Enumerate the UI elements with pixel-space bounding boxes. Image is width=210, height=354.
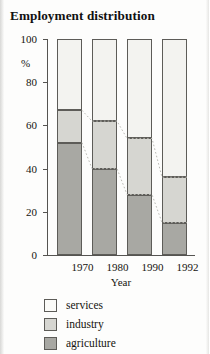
bar-1990-segment-agriculture	[127, 195, 152, 255]
bar-1980-segment-agriculture	[92, 169, 117, 255]
services-swatch-icon	[44, 299, 57, 312]
axes-container: 100 80 60 40 20 0	[47, 39, 199, 255]
legend-label-industry: industry	[66, 318, 104, 330]
y-tick-0: 0	[43, 255, 48, 256]
legend-label-services: services	[66, 299, 103, 311]
bar-1992[interactable]	[162, 39, 187, 255]
y-tick-20: 20	[43, 212, 48, 213]
y-axis-line	[47, 39, 48, 256]
bar-1970-segment-agriculture	[57, 143, 82, 255]
x-axis-line	[47, 255, 195, 256]
industry-swatch-icon	[44, 318, 57, 331]
bar-1970[interactable]	[57, 39, 82, 255]
legend: services industry agriculture	[44, 296, 194, 353]
bar-1970-segment-industry	[57, 110, 82, 142]
bar-1980-segment-services	[92, 39, 117, 121]
chart-page: Employment distribution % 100 80 60 40 2…	[0, 0, 209, 354]
bar-1990[interactable]	[127, 39, 152, 255]
bar-1980[interactable]	[92, 39, 117, 255]
bar-1992-segment-services	[162, 39, 187, 177]
bar-1980-segment-industry	[92, 121, 117, 169]
y-tick-100: 100	[43, 39, 48, 40]
y-tick-80: 80	[43, 82, 48, 83]
y-tick-label-80: 80	[26, 77, 37, 88]
agriculture-swatch-icon	[44, 337, 57, 350]
bar-1992-segment-industry	[162, 177, 187, 222]
x-axis-title: Year	[47, 276, 195, 288]
legend-item-services[interactable]: services	[44, 296, 194, 314]
y-tick-60: 60	[43, 125, 48, 126]
y-tick-label-0: 0	[32, 250, 38, 261]
bar-1990-segment-industry	[127, 138, 152, 194]
x-tick-label-1992: 1992	[163, 261, 210, 273]
y-tick-label-60: 60	[26, 120, 37, 131]
bar-1992-segment-agriculture	[162, 223, 187, 255]
bar-1970-segment-services	[57, 39, 82, 110]
y-tick-label-20: 20	[26, 206, 37, 217]
legend-label-agriculture: agriculture	[66, 337, 116, 349]
y-tick-label-40: 40	[26, 163, 37, 174]
y-tick-40: 40	[43, 169, 48, 170]
legend-item-industry[interactable]: industry	[44, 315, 194, 333]
legend-item-agriculture[interactable]: agriculture	[44, 334, 194, 352]
bar-1990-segment-services	[127, 39, 152, 138]
y-tick-label-100: 100	[21, 34, 38, 45]
